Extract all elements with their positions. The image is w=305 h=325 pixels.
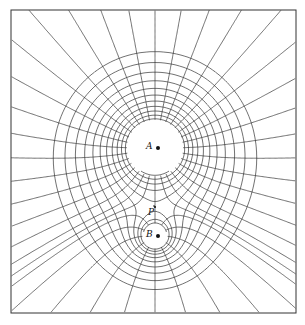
neutral-point-label: P xyxy=(148,207,154,217)
figure-frame xyxy=(11,10,296,313)
charge-a-label: A xyxy=(146,141,153,151)
charge-b-label: B xyxy=(146,229,153,239)
field-line-diagram xyxy=(0,0,305,325)
charge-a-dot xyxy=(156,146,160,150)
charge-b-dot xyxy=(156,234,160,238)
